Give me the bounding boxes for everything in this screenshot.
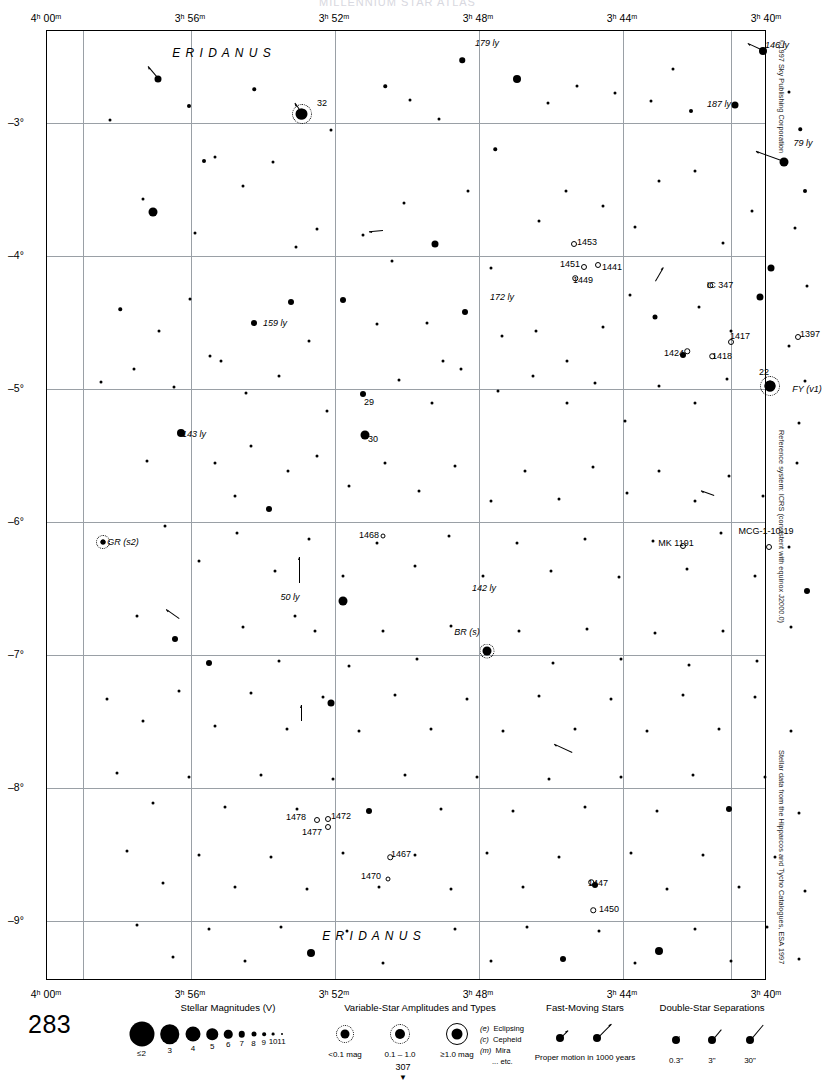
star-point <box>242 185 245 188</box>
object-label: 1447 <box>588 878 608 888</box>
object-label: 1470 <box>361 871 381 881</box>
galaxy-symbol <box>386 877 391 882</box>
sky-chart[interactable]: E R I D A N U SE R I D A N U S179 ly146 … <box>46 30 766 980</box>
star-point <box>790 626 793 629</box>
star-point <box>244 960 247 963</box>
star-point <box>404 774 407 777</box>
legend-fastmoving-title: Fast-Moving Stars <box>546 1002 624 1013</box>
star-point <box>414 854 417 857</box>
star-point <box>798 127 802 131</box>
legend-magnitude-dot <box>186 1027 201 1042</box>
legend-double-title: Double-Star Separations <box>659 1002 764 1013</box>
legend-magnitude-label: 11 <box>277 1037 285 1046</box>
star-point <box>620 776 623 779</box>
star-point <box>694 928 697 931</box>
credit-text: ©1997 Sky Publishing Corporation <box>777 40 786 153</box>
star-point <box>584 806 587 809</box>
ra-tick-label-top: 3ʰ 48ᵐ <box>463 12 493 24</box>
star-point <box>652 540 655 543</box>
galaxy-symbol <box>325 824 331 830</box>
star-point <box>547 102 550 105</box>
object-label: 1477 <box>302 827 322 837</box>
star-point <box>430 728 433 731</box>
legend-magnitude-dot <box>160 1024 180 1044</box>
credit-text: Stellar data from the Hipparcos and Tych… <box>777 750 786 964</box>
ra-tick-label-bottom: 3ʰ 52ᵐ <box>319 988 349 1000</box>
star-point <box>522 886 525 889</box>
star-point <box>450 625 453 628</box>
star-point <box>414 565 417 568</box>
object-label: 30 <box>368 434 378 444</box>
object-label: 1478 <box>286 812 306 822</box>
legend-variable-dot <box>395 1029 405 1039</box>
star-point <box>624 420 627 423</box>
star-point <box>686 568 689 571</box>
star-point <box>234 886 237 889</box>
star-point <box>382 962 385 965</box>
star-point <box>416 658 419 661</box>
star-point <box>220 360 223 363</box>
star-point <box>804 588 810 594</box>
star-point <box>694 500 697 503</box>
star-point <box>798 422 801 425</box>
object-label: 1468 <box>359 530 379 540</box>
star-point <box>403 202 406 205</box>
star-point <box>803 189 807 193</box>
object-label: IC 347 <box>707 280 734 290</box>
star-point <box>172 956 175 959</box>
star-point <box>308 340 311 343</box>
star-point <box>756 660 759 663</box>
object-label: GR (s2) <box>107 537 139 547</box>
star-point <box>376 323 379 326</box>
star-point <box>384 462 387 465</box>
star-point <box>234 495 237 498</box>
proper-motion-arrow <box>701 490 714 496</box>
legend-variables-title: Variable-Star Amplitudes and Types <box>344 1002 496 1013</box>
chart-legend: 283 Stellar Magnitudes (V)≤234567891011V… <box>0 1000 795 1087</box>
star-point <box>490 267 493 270</box>
star-point <box>448 535 451 538</box>
star-point <box>224 806 227 809</box>
star-point <box>328 700 335 707</box>
legend-magnitude-label: 4 <box>191 1044 195 1053</box>
star-point <box>726 806 732 812</box>
star-point <box>754 575 757 578</box>
grid-line-dec <box>47 123 765 124</box>
legend-magnitude-label: 9 <box>262 1038 266 1047</box>
grid-line-ra <box>335 31 336 979</box>
legend-magnitude-dot <box>239 1031 246 1038</box>
star-point <box>214 725 217 728</box>
ra-tick-label-bottom: 4ʰ 00ᵐ <box>31 988 61 1000</box>
object-label: 1397 <box>800 329 820 339</box>
legend-variable-label: <0.1 mag <box>328 1050 362 1059</box>
star-point <box>524 470 527 473</box>
proper-motion-arrow <box>148 66 159 79</box>
star-point <box>566 360 569 363</box>
star-point <box>245 392 248 395</box>
star-point <box>594 382 597 385</box>
star-point <box>208 928 211 931</box>
star-point <box>252 87 256 91</box>
grid-line-ra <box>479 31 480 979</box>
star-point <box>658 180 661 183</box>
star-point <box>460 368 463 371</box>
star-point <box>189 298 192 301</box>
legend-magnitude-label: 8 <box>251 1039 255 1048</box>
star-point <box>133 368 136 371</box>
star-point <box>586 628 589 631</box>
star-point <box>512 810 515 813</box>
star-point <box>250 692 253 695</box>
star-point <box>552 662 555 665</box>
star-point <box>342 852 345 855</box>
legend-magnitude-dot <box>129 1022 154 1047</box>
legend-magnitude-label: 7 <box>240 1039 244 1048</box>
star-point <box>689 109 693 113</box>
star-point <box>646 730 649 733</box>
legend-variable-type: (m) Mira <box>480 1046 510 1055</box>
object-label: 50 ly <box>280 592 299 602</box>
star-point <box>728 475 731 478</box>
legend-magnitude-label: 6 <box>226 1040 230 1049</box>
star-point <box>598 930 601 933</box>
variable-star-core <box>765 381 776 392</box>
